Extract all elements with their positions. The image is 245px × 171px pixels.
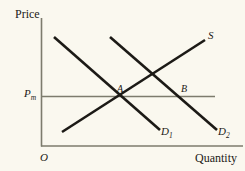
demand-curve-1	[54, 37, 160, 130]
demand2-subscript: 2	[226, 131, 230, 140]
supply-curve-label: S	[208, 30, 214, 41]
price-level-symbol: P	[24, 87, 31, 99]
demand1-subscript: 1	[169, 131, 173, 140]
demand-curve-1-label: D1	[161, 126, 173, 137]
demand-curve-2	[110, 37, 217, 130]
x-axis-label: Quantity	[195, 152, 237, 164]
demand-curve-2-label: D2	[218, 126, 230, 137]
y-axis-label: Price	[15, 8, 40, 20]
point-a-label: A	[117, 84, 123, 94]
demand2-symbol: D	[218, 125, 226, 137]
demand1-symbol: D	[161, 125, 169, 137]
price-level-label: Pm	[24, 88, 36, 99]
origin-label: O	[40, 152, 48, 163]
point-b-label: B	[181, 84, 187, 94]
price-level-subscript: m	[31, 93, 36, 102]
supply-demand-diagram: Price Quantity O Pm A B S D1 D2	[0, 0, 245, 171]
